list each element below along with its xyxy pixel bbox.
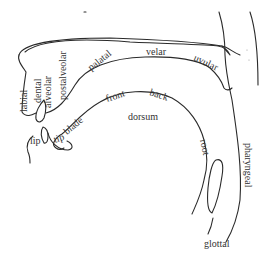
larynx-line <box>208 218 213 234</box>
label-front: front <box>104 87 126 104</box>
label-uvular: uvular <box>192 52 220 73</box>
label-alveolar: alveolar <box>42 75 53 108</box>
lower-teeth <box>41 127 48 143</box>
label-labial: labial <box>18 90 29 112</box>
vocal-tract-diagram: labial dental alveolar postalveolar pala… <box>0 0 270 269</box>
label-glottal: glottal <box>204 238 230 249</box>
label-back: back <box>148 86 169 102</box>
label-pharyngeal: pharyngeal <box>243 143 254 188</box>
label-blade: blade <box>61 114 85 137</box>
speck-dot <box>248 59 249 60</box>
outer-top-contour <box>19 38 240 55</box>
label-dorsum: dorsum <box>128 111 158 122</box>
label-postalveolar: postalveolar <box>57 50 68 100</box>
label-root: root <box>198 138 212 156</box>
speck-dot <box>246 49 247 50</box>
epiglottis <box>207 160 222 213</box>
label-palatal: palatal <box>85 47 113 72</box>
label-velar: velar <box>146 46 167 57</box>
label-upper-lip: lip <box>30 135 41 146</box>
tongue-surface <box>54 92 207 214</box>
